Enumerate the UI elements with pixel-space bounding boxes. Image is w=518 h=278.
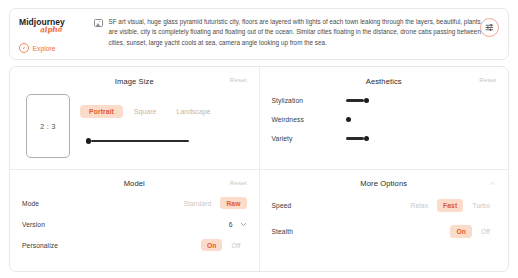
settings-panel-card: Image Size Reset 2 : 3 Portrait Square L… <box>9 66 509 272</box>
panel-aesthetics: Aesthetics Reset Stylization Weirdness <box>260 67 509 169</box>
more-options-row-speed: Speed Relax Fast Turbo <box>272 193 497 219</box>
panel-header: Image Size Reset <box>22 75 247 87</box>
mode-options: Standard Raw <box>177 197 246 209</box>
midjourney-logo[interactable]: Midjourney alpha <box>19 18 91 35</box>
personalize-option-off[interactable]: Off <box>225 239 246 251</box>
aesthetics-row-stylization: Stylization <box>272 91 497 110</box>
panel-title: Model <box>124 179 145 188</box>
chevron-up-icon[interactable] <box>489 180 496 187</box>
model-row-mode: Mode Standard Raw <box>22 193 247 214</box>
variety-label: Variety <box>272 135 346 142</box>
panel-header: Aesthetics Reset <box>272 75 497 87</box>
personalize-options: On Off <box>201 239 247 251</box>
aesthetics-body: Stylization Weirdness <box>272 89 497 163</box>
orientation-segmented-control: Portrait Square Landscape <box>80 105 247 118</box>
orientation-option-landscape[interactable]: Landscape <box>168 105 220 118</box>
panel-model: Model Reset Mode Standard Raw Version <box>10 170 260 272</box>
explore-link[interactable]: Explore <box>19 43 91 53</box>
stealth-label: Stealth <box>272 228 451 235</box>
weirdness-slider-thumb[interactable] <box>346 117 351 122</box>
stealth-option-on[interactable]: On <box>450 225 472 237</box>
reset-model-button[interactable]: Reset <box>230 179 247 186</box>
model-row-version: Version 6 <box>22 214 247 235</box>
speed-option-turbo[interactable]: Turbo <box>466 199 496 211</box>
variety-slider[interactable] <box>346 136 369 141</box>
brand-script-subtitle: alpha <box>40 24 63 34</box>
more-options-body: Speed Relax Fast Turbo Stealth On Off <box>272 192 497 266</box>
panel-header: More Options <box>272 178 497 190</box>
settings-row-bottom: Model Reset Mode Standard Raw Version <box>10 170 508 272</box>
image-icon <box>94 19 103 27</box>
stealth-options: On Off <box>450 225 496 237</box>
reset-aesthetics-button[interactable]: Reset <box>479 76 496 83</box>
speed-options: Relax Fast Turbo <box>405 199 497 211</box>
settings-row-top: Image Size Reset 2 : 3 Portrait Square L… <box>10 67 508 170</box>
speed-option-fast[interactable]: Fast <box>437 199 463 211</box>
personalize-label: Personalize <box>22 242 201 249</box>
aesthetics-row-variety: Variety <box>272 129 497 148</box>
image-size-slider-track[interactable] <box>91 140 189 142</box>
mode-label: Mode <box>22 200 177 207</box>
orientation-option-portrait[interactable]: Portrait <box>80 105 123 118</box>
version-select[interactable]: 6 <box>229 221 247 228</box>
panel-title: More Options <box>360 179 407 188</box>
version-value: 6 <box>229 221 233 228</box>
stylization-slider-thumb[interactable] <box>364 98 369 103</box>
model-body: Mode Standard Raw Version 6 <box>22 192 247 266</box>
sliders-settings-icon[interactable] <box>480 18 499 37</box>
orientation-option-square[interactable]: Square <box>125 105 166 118</box>
image-size-controls: Portrait Square Landscape <box>80 92 247 145</box>
compass-icon <box>19 43 29 53</box>
prompt-area[interactable]: SF art visual, huge glass pyramid futuri… <box>91 16 499 48</box>
weirdness-label: Weirdness <box>272 116 346 123</box>
explore-label: Explore <box>33 45 56 52</box>
weirdness-slider[interactable] <box>346 117 351 122</box>
stylization-slider[interactable] <box>346 98 369 103</box>
speed-label: Speed <box>272 202 405 209</box>
aspect-ratio-value: 2 : 3 <box>40 123 56 130</box>
model-row-personalize: Personalize On Off <box>22 235 247 256</box>
panel-header: Model Reset <box>22 178 247 190</box>
panel-more-options: More Options Speed Relax Fast Turbo <box>260 170 509 272</box>
mode-option-standard[interactable]: Standard <box>177 197 217 209</box>
mode-option-raw[interactable]: Raw <box>220 197 246 209</box>
aspect-ratio-preview[interactable]: 2 : 3 <box>26 94 70 158</box>
speed-option-relax[interactable]: Relax <box>405 199 435 211</box>
stealth-option-off[interactable]: Off <box>475 225 496 237</box>
panel-image-size: Image Size Reset 2 : 3 Portrait Square L… <box>10 67 260 169</box>
image-size-body: 2 : 3 Portrait Square Landscape <box>22 89 247 163</box>
personalize-option-on[interactable]: On <box>201 239 223 251</box>
brand-column: Midjourney alpha Explore <box>19 16 91 53</box>
aesthetics-row-weirdness: Weirdness <box>272 110 497 129</box>
stylization-label: Stylization <box>272 97 346 104</box>
stylization-slider-track[interactable] <box>346 99 364 101</box>
prompt-text[interactable]: SF art visual, huge glass pyramid futuri… <box>109 17 500 48</box>
version-label: Version <box>22 221 229 228</box>
variety-slider-thumb[interactable] <box>364 136 369 141</box>
chevron-down-icon <box>240 221 247 228</box>
more-options-row-stealth: Stealth On Off <box>272 219 497 245</box>
reset-image-size-button[interactable]: Reset <box>230 76 247 83</box>
panel-title: Aesthetics <box>366 77 402 86</box>
variety-slider-track[interactable] <box>346 137 364 139</box>
image-size-slider[interactable] <box>80 136 247 145</box>
midjourney-settings-screen: Midjourney alpha Explore SF art visual, … <box>0 0 518 278</box>
panel-title: Image Size <box>115 77 154 86</box>
prompt-header-card: Midjourney alpha Explore SF art visual, … <box>9 8 509 60</box>
